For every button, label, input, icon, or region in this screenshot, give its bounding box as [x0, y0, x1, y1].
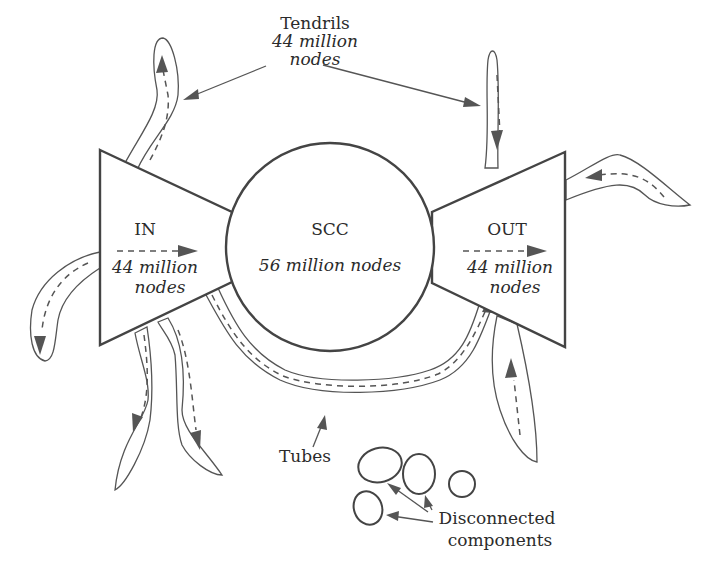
tendril-in-bottom-2	[158, 318, 222, 475]
tendril-out-bottom	[492, 316, 537, 462]
in-component-shape	[100, 150, 232, 345]
tubes-label: Tubes	[265, 448, 345, 465]
tendril-out-top	[485, 51, 503, 168]
tendrils-label: Tendrils	[255, 15, 375, 32]
in-label: IN	[115, 221, 175, 238]
out-count-line1: 44 million	[455, 259, 565, 276]
in-count-line1: 44 million	[100, 259, 210, 276]
in-count-line2: nodes	[110, 279, 210, 296]
tendril-in-bottom-1	[115, 327, 152, 490]
out-label: OUT	[472, 221, 542, 238]
disconnected-label-line2: components	[440, 532, 560, 549]
tendril-in-top	[125, 38, 178, 170]
tendrils-pointer-arrows	[183, 65, 481, 107]
tubes-pointer-arrow	[313, 415, 327, 447]
tendril-out-right	[566, 155, 690, 206]
tendrils-count-line2: nodes	[255, 51, 375, 68]
tendrils-count-line1: 44 million	[245, 33, 385, 50]
scc-label: SCC	[290, 221, 370, 238]
disconnected-label-line1: Disconnected	[432, 510, 562, 527]
scc-count: 56 million nodes	[250, 257, 410, 274]
out-count-line2: nodes	[465, 279, 565, 296]
bow-tie-diagram	[0, 0, 712, 575]
scc-shape	[226, 143, 434, 351]
tendril-in-left	[31, 252, 100, 361]
